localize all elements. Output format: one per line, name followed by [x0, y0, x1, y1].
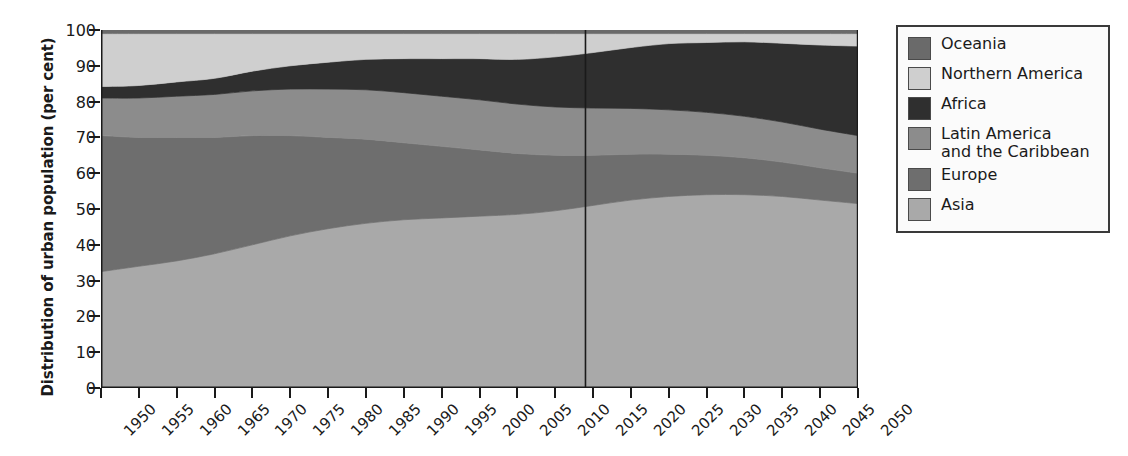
x-tick-mark — [516, 388, 518, 398]
x-tick-label: 1995 — [461, 400, 501, 440]
x-tick-label: 2025 — [688, 400, 728, 440]
chart-figure: Distribution of urban population (per ce… — [0, 0, 1128, 456]
x-tick-mark — [176, 388, 178, 398]
legend-swatch — [908, 97, 931, 120]
x-tick-label: 1985 — [385, 400, 425, 440]
legend-label: Africa — [941, 95, 987, 113]
x-tick-mark — [289, 388, 291, 398]
x-tick-label: 1990 — [423, 400, 463, 440]
legend-label: Asia — [941, 196, 975, 214]
x-tick-mark — [138, 388, 140, 398]
legend-swatch — [908, 67, 931, 90]
legend-swatch — [908, 127, 931, 150]
x-tick-mark — [743, 388, 745, 398]
x-tick-mark — [251, 388, 253, 398]
x-tick-mark — [214, 388, 216, 398]
legend-swatch — [908, 168, 931, 191]
x-tick-label: 1955 — [158, 400, 198, 440]
x-tick-label: 2035 — [764, 400, 804, 440]
x-tick-label: 2005 — [537, 400, 577, 440]
legend-item[interactable]: Oceania — [908, 35, 1098, 60]
x-tick-mark — [668, 388, 670, 398]
chart-legend: OceaniaNorthern AmericaAfricaLatin Ameri… — [896, 25, 1110, 233]
x-tick-mark — [857, 388, 859, 398]
legend-label: Europe — [941, 166, 997, 184]
x-tick-mark — [592, 388, 594, 398]
x-tick-label: 2050 — [877, 400, 917, 440]
legend-label: Latin Americaand the Caribbean — [941, 125, 1090, 161]
x-tick-label: 1980 — [347, 400, 387, 440]
x-tick-mark — [781, 388, 783, 398]
x-tick-mark — [403, 388, 405, 398]
x-tick-mark — [706, 388, 708, 398]
x-tick-label: 1950 — [120, 400, 160, 440]
legend-item[interactable]: Northern America — [908, 65, 1098, 90]
legend-swatch — [908, 198, 931, 221]
x-tick-mark — [441, 388, 443, 398]
x-tick-mark — [554, 388, 556, 398]
x-tick-label: 2020 — [650, 400, 690, 440]
x-tick-mark — [630, 388, 632, 398]
x-tick-label: 2000 — [499, 400, 539, 440]
x-tick-mark — [365, 388, 367, 398]
x-tick-mark — [819, 388, 821, 398]
legend-label: Northern America — [941, 65, 1083, 83]
x-tick-label: 1975 — [309, 400, 349, 440]
x-tick-mark — [479, 388, 481, 398]
x-tick-mark — [327, 388, 329, 398]
x-tick-label: 2010 — [574, 400, 614, 440]
x-tick-label: 2030 — [726, 400, 766, 440]
legend-item[interactable]: Africa — [908, 95, 1098, 120]
x-tick-label: 2045 — [839, 400, 879, 440]
legend-label: Oceania — [941, 35, 1006, 53]
legend-swatch — [908, 37, 931, 60]
x-tick-label: 2015 — [612, 400, 652, 440]
x-tick-label: 1965 — [234, 400, 274, 440]
x-tick-label: 1970 — [272, 400, 312, 440]
legend-item[interactable]: Latin Americaand the Caribbean — [908, 125, 1098, 161]
legend-item[interactable]: Asia — [908, 196, 1098, 221]
x-tick-mark — [100, 388, 102, 398]
x-tick-label: 2040 — [801, 400, 841, 440]
legend-item[interactable]: Europe — [908, 166, 1098, 191]
x-tick-label: 1960 — [196, 400, 236, 440]
